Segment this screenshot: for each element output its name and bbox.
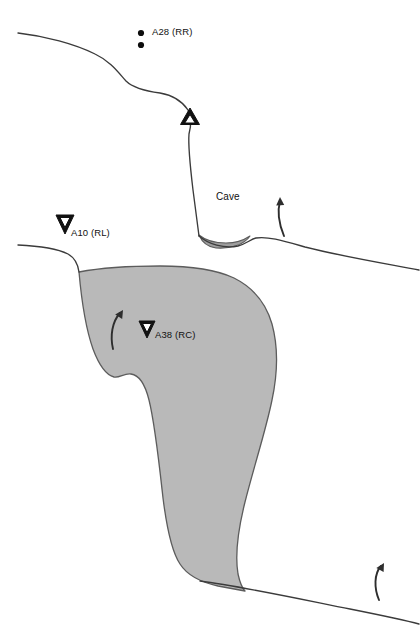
cave-profile-diagram bbox=[0, 0, 420, 644]
cave-cross-section-figure: A28 (RR) A10 (RL) A38 (RC) Cave bbox=[0, 0, 420, 644]
station-label-a28: A28 (RR) bbox=[152, 27, 192, 37]
lower-surface-profile-line bbox=[18, 245, 79, 272]
curved-flow-arrow-icon-lower bbox=[375, 563, 384, 600]
station-label-a10: A10 (RL) bbox=[71, 228, 110, 238]
two-dots-icon-a28 bbox=[138, 30, 144, 48]
cave-label: Cave bbox=[216, 192, 240, 203]
upper-surface-profile-line bbox=[18, 33, 199, 236]
curved-flow-arrow-icon-cave bbox=[276, 197, 284, 236]
cave-floor-right-profile-line bbox=[199, 236, 419, 270]
station-label-a38: A38 (RC) bbox=[155, 330, 195, 340]
main-passage-shape bbox=[79, 266, 277, 591]
triangle-up-icon bbox=[181, 108, 200, 125]
filled-regions-group bbox=[79, 235, 277, 591]
